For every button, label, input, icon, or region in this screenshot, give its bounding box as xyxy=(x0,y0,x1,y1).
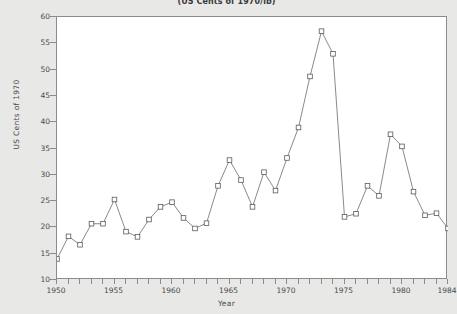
y-tick-mark xyxy=(50,42,56,43)
data-point-marker xyxy=(342,215,347,220)
x-tick-mark xyxy=(102,279,103,284)
y-tick-mark xyxy=(50,200,56,201)
x-tick-label: 1970 xyxy=(276,286,295,295)
y-tick-label: 40 xyxy=(24,117,50,126)
x-tick-mark xyxy=(332,279,333,284)
x-tick-mark xyxy=(68,279,69,284)
x-tick-mark xyxy=(160,279,161,284)
data-point-marker xyxy=(170,200,175,205)
x-tick-mark xyxy=(137,279,138,284)
data-point-marker xyxy=(365,184,370,189)
x-tick-mark xyxy=(206,279,207,284)
x-tick-label: 1965 xyxy=(219,286,238,295)
x-tick-label: 1984 xyxy=(437,286,456,295)
y-tick-label: 15 xyxy=(24,248,50,257)
data-point-marker xyxy=(308,74,313,79)
x-tick-mark xyxy=(367,279,368,284)
data-point-marker xyxy=(411,189,416,194)
data-point-marker xyxy=(423,213,428,218)
x-tick-mark xyxy=(424,279,425,284)
y-tick-label: 20 xyxy=(24,222,50,231)
data-point-marker xyxy=(227,158,232,163)
y-tick-label: 45 xyxy=(24,90,50,99)
x-tick-mark xyxy=(436,279,437,284)
x-tick-mark xyxy=(125,279,126,284)
y-tick-label: 35 xyxy=(24,143,50,152)
data-point-marker xyxy=(57,257,59,262)
y-tick-mark xyxy=(50,95,56,96)
x-tick-mark xyxy=(263,279,264,284)
data-series-svg xyxy=(57,17,448,280)
data-point-marker xyxy=(434,211,439,216)
data-point-marker xyxy=(66,234,71,239)
data-point-marker xyxy=(377,194,382,199)
data-point-marker xyxy=(388,132,393,137)
y-tick-label: 50 xyxy=(24,64,50,73)
y-tick-label: 25 xyxy=(24,196,50,205)
x-tick-mark xyxy=(217,279,218,284)
x-tick-mark xyxy=(56,279,57,284)
x-tick-mark xyxy=(355,279,356,284)
data-point-marker xyxy=(262,170,267,175)
x-tick-mark xyxy=(148,279,149,284)
data-point-marker xyxy=(285,156,290,161)
chart-title: (US Cents of 1970/lb) xyxy=(0,0,453,6)
x-tick-mark xyxy=(183,279,184,284)
x-tick-mark xyxy=(171,279,172,284)
x-tick-label: 1950 xyxy=(46,286,65,295)
data-point-marker xyxy=(216,184,221,189)
data-point-marker xyxy=(400,144,405,149)
x-tick-label: 1955 xyxy=(104,286,123,295)
data-point-marker xyxy=(78,242,83,247)
x-tick-label: 1980 xyxy=(391,286,410,295)
x-tick-mark xyxy=(309,279,310,284)
x-tick-mark xyxy=(321,279,322,284)
data-point-marker xyxy=(89,221,94,226)
x-tick-mark xyxy=(79,279,80,284)
x-tick-mark xyxy=(91,279,92,284)
data-point-marker xyxy=(446,226,448,231)
y-tick-mark xyxy=(50,16,56,17)
x-tick-label: 1960 xyxy=(161,286,180,295)
x-tick-mark xyxy=(344,279,345,284)
y-tick-mark xyxy=(50,121,56,122)
x-tick-label: 1975 xyxy=(334,286,353,295)
y-tick-label: 30 xyxy=(24,169,50,178)
data-point-marker xyxy=(204,221,209,226)
y-tick-mark xyxy=(50,148,56,149)
plot-area xyxy=(56,16,447,279)
data-point-marker xyxy=(193,226,198,231)
data-point-marker xyxy=(124,229,129,234)
y-tick-mark xyxy=(50,174,56,175)
data-point-marker xyxy=(331,52,336,57)
y-tick-mark xyxy=(50,69,56,70)
x-tick-mark xyxy=(275,279,276,284)
data-point-marker xyxy=(296,125,301,130)
y-axis-tick-labels: 1015202530354045505560 xyxy=(20,16,50,279)
x-tick-mark xyxy=(114,279,115,284)
x-tick-mark xyxy=(252,279,253,284)
data-point-marker xyxy=(250,205,255,210)
y-tick-label: 10 xyxy=(24,275,50,284)
data-point-marker xyxy=(101,221,106,226)
x-tick-mark xyxy=(413,279,414,284)
x-axis-label: Year xyxy=(0,299,453,308)
y-tick-label: 55 xyxy=(24,38,50,47)
data-point-marker xyxy=(319,29,324,34)
data-point-marker xyxy=(112,197,117,202)
y-tick-mark xyxy=(50,253,56,254)
x-tick-mark xyxy=(447,279,448,284)
data-point-marker xyxy=(239,178,244,183)
data-point-marker xyxy=(181,216,186,221)
data-point-marker xyxy=(158,205,163,210)
y-tick-label: 60 xyxy=(24,12,50,21)
data-point-marker xyxy=(147,217,152,222)
data-point-marker xyxy=(273,188,278,193)
x-tick-mark xyxy=(401,279,402,284)
x-tick-mark xyxy=(378,279,379,284)
y-tick-mark xyxy=(50,226,56,227)
x-tick-mark xyxy=(390,279,391,284)
x-tick-mark xyxy=(194,279,195,284)
x-tick-mark xyxy=(286,279,287,284)
